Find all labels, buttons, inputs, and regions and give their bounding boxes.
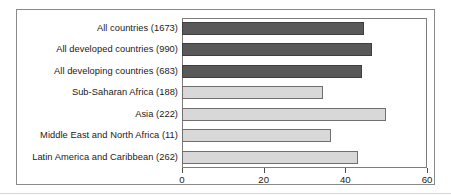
bar-track (182, 125, 427, 146)
bar-row: All developing countries (683) (16, 61, 427, 82)
x-axis-ticks: 0204060 (182, 168, 427, 190)
x-tick-label: 20 (258, 174, 269, 185)
bar-row: Asia (222) (16, 104, 427, 125)
x-tick-label: 0 (179, 174, 184, 185)
bar-row: Middle East and North Africa (11) (16, 125, 427, 146)
bar-chart-figure: All countries (1673) All developed count… (0, 0, 451, 195)
bar-row: Sub-Saharan Africa (188) (16, 82, 427, 103)
bar-track (182, 147, 427, 168)
bar-all-developing-countries[interactable] (182, 65, 362, 78)
bar-track (182, 61, 427, 82)
bar-middle-east-and-north-africa[interactable] (182, 129, 331, 142)
category-label: All developing countries (683) (54, 61, 178, 82)
bottom-rule (0, 193, 451, 194)
x-tick-label: 60 (422, 174, 433, 185)
category-label: Sub-Saharan Africa (188) (72, 82, 178, 103)
bar-all-developed-countries[interactable] (182, 43, 372, 56)
x-tick-mark (264, 168, 265, 173)
x-tick-label: 40 (340, 174, 351, 185)
category-label: Asia (222) (135, 104, 178, 125)
bar-latin-america-and-caribbean[interactable] (182, 151, 358, 164)
bar-track (182, 39, 427, 60)
x-tick-mark (182, 168, 183, 173)
bar-sub-saharan-africa[interactable] (182, 86, 323, 99)
bar-track (182, 18, 427, 39)
bar-all-countries[interactable] (182, 22, 364, 35)
bar-row: Latin America and Caribbean (262) (16, 147, 427, 168)
bar-row: All developed countries (990) (16, 39, 427, 60)
category-label: All developed countries (990) (56, 39, 178, 60)
x-tick-mark (345, 168, 346, 173)
category-label: Latin America and Caribbean (262) (32, 147, 178, 168)
bar-asia[interactable] (182, 108, 386, 121)
bar-rows-container: All countries (1673) All developed count… (16, 18, 427, 168)
x-tick-mark (427, 168, 428, 173)
bar-row: All countries (1673) (16, 18, 427, 39)
category-label: All countries (1673) (97, 18, 178, 39)
category-label: Middle East and North Africa (11) (40, 125, 178, 146)
bar-track (182, 104, 427, 125)
bar-track (182, 82, 427, 103)
